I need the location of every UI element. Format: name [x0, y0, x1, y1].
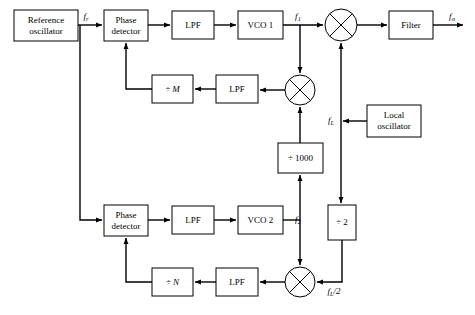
- block-label: VCO 2: [248, 215, 274, 225]
- block-label: Filter: [401, 20, 421, 30]
- block-lpf-m-loop[interactable]: LPF: [216, 75, 258, 103]
- block-label: ÷ N: [166, 277, 180, 287]
- block-vco-1[interactable]: VCO 1: [238, 11, 283, 39]
- block-label: oscillator: [29, 26, 63, 36]
- block-label: Reference: [28, 15, 64, 25]
- block-label: detector: [112, 26, 141, 36]
- wire-divm-to-pdtop: [126, 43, 152, 89]
- block-lpf-bottom[interactable]: LPF: [172, 206, 214, 234]
- block-divide-by-1000[interactable]: ÷ 1000: [278, 143, 323, 173]
- block-vco-2[interactable]: VCO 2: [238, 206, 283, 234]
- mixer-lower-loop: [285, 267, 315, 297]
- block-label: oscillator: [377, 121, 411, 131]
- block-phase-detector-top[interactable]: Phase detector: [104, 10, 148, 41]
- block-label: LPF: [185, 20, 201, 30]
- block-lpf-n-loop[interactable]: LPF: [216, 268, 258, 296]
- block-label: ÷ M: [165, 84, 180, 94]
- block-label: LPF: [229, 277, 245, 287]
- block-label: VCO 1: [248, 20, 274, 30]
- block-divide-by-m[interactable]: ÷ M: [152, 75, 193, 103]
- block-local-oscillator[interactable]: Local oscillator: [367, 105, 421, 137]
- signal-label-f1: f1: [295, 11, 301, 22]
- block-label: ÷ 1000: [288, 153, 314, 163]
- mixer-output: [325, 9, 357, 41]
- block-label: LPF: [185, 215, 201, 225]
- block-label: Phase: [116, 15, 137, 25]
- block-label: detector: [112, 221, 141, 231]
- block-label: Local: [384, 110, 405, 120]
- wire-fr-branch-down: [80, 25, 102, 220]
- block-divide-by-2[interactable]: ÷ 2: [328, 205, 356, 240]
- block-phase-detector-bottom[interactable]: Phase detector: [104, 205, 148, 236]
- block-label: ÷ 2: [336, 217, 348, 227]
- wire-layer: [78, 25, 463, 282]
- block-ref-oscillator[interactable]: Reference oscillator: [14, 10, 78, 41]
- signal-label-fr: fr: [83, 11, 89, 22]
- signal-label-fl-over-2: fL/2: [327, 286, 341, 297]
- block-label: Phase: [116, 210, 137, 220]
- block-divide-by-n[interactable]: ÷ N: [152, 268, 193, 296]
- block-filter[interactable]: Filter: [389, 11, 433, 39]
- block-diagram: Reference oscillator Phase detector LPF …: [0, 0, 475, 315]
- block-lpf-top[interactable]: LPF: [172, 11, 214, 39]
- wire-divn-to-pdbot: [126, 238, 152, 282]
- mixer-upper-loop: [285, 75, 315, 105]
- block-label: LPF: [229, 84, 245, 94]
- wire-div2-to-mixerbot: [317, 240, 342, 282]
- signal-label-fo: fo: [449, 11, 456, 22]
- signal-label-fl: fL: [328, 115, 335, 126]
- signal-label-layer: fr f1 fo fL f2 fL/2: [83, 11, 455, 297]
